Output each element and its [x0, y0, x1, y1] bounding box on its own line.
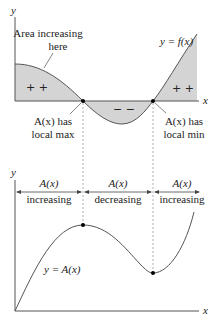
top-y-label: y [10, 4, 16, 16]
local-min-pointer [155, 103, 166, 113]
area-pointer-line [44, 53, 53, 68]
local-min-label-line1: A(x) has [165, 115, 203, 128]
curve-A-label: y = A(x) [43, 263, 81, 276]
negative-signs: − − [113, 103, 135, 116]
area-function-diagram: y x Area increasing here y = f(x) + + − … [0, 0, 221, 323]
curve-A [15, 212, 194, 311]
interval-2-function: A(x) [108, 177, 128, 190]
interval-1-state: increasing [26, 193, 72, 205]
interval-1-function: A(x) [39, 177, 59, 190]
local-min-label-line2: local min [163, 128, 205, 140]
local-min-point-top [151, 99, 155, 103]
interval-3-state: increasing [159, 193, 205, 205]
area-increasing-label-line1: Area increasing [13, 27, 83, 39]
local-min-point-bottom [151, 271, 155, 275]
local-max-pointer [70, 103, 81, 114]
area-increasing-label-line2: here [49, 40, 68, 52]
top-x-label: x [202, 94, 208, 106]
local-max-label-line2: local max [31, 128, 75, 140]
positive-signs-left: + + [26, 81, 48, 94]
interval-3-function: A(x) [172, 177, 192, 190]
positive-signs-right: + + [172, 82, 194, 95]
bottom-y-label: y [10, 166, 16, 178]
curve-f-label: y = f(x) [159, 35, 193, 48]
interval-2-state: decreasing [94, 193, 142, 205]
local-max-point-bottom [81, 223, 85, 227]
bottom-x-label: x [202, 304, 208, 316]
local-max-label-line1: A(x) has [34, 115, 72, 128]
local-max-point-top [81, 99, 85, 103]
